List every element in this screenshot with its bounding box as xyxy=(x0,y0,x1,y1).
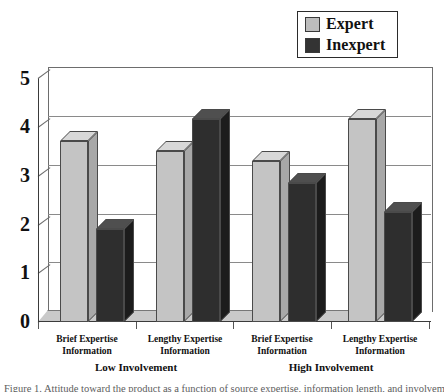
bar-expert-g1 xyxy=(60,141,88,322)
figure-root: Expert Inexpert 0 1 2 3 4 5 xyxy=(0,0,447,392)
x-label-line1: Lengthy Expertise xyxy=(136,334,234,346)
bar-inexpert-g4 xyxy=(384,212,412,322)
bar-face xyxy=(60,141,88,322)
x-label-line1: Brief Expertise xyxy=(233,334,331,346)
plot-area xyxy=(38,78,431,322)
bar-side xyxy=(316,173,326,322)
group-label-high-involvement: High Involvement xyxy=(233,361,429,373)
x-label-group1-cat1: Brief Expertise Information xyxy=(38,334,136,357)
bar-inexpert-g2 xyxy=(192,119,220,322)
x-label-group2-cat2: Lengthy Expertise Information xyxy=(331,334,429,357)
bar-face xyxy=(156,151,184,322)
legend-swatch-icon-expert xyxy=(305,17,320,32)
x-label-line1: Lengthy Expertise xyxy=(331,334,429,346)
y-tick-label-2: 2 xyxy=(8,214,30,234)
bar-inexpert-g1 xyxy=(96,229,124,322)
x-label-line2: Information xyxy=(233,346,331,358)
legend-label-inexpert: Inexpert xyxy=(326,37,385,53)
x-tick-1 xyxy=(136,322,137,329)
bar-face xyxy=(384,212,412,322)
y-axis-line xyxy=(38,89,39,322)
bar-side xyxy=(124,219,134,322)
bar-face xyxy=(288,183,316,322)
legend-item-expert: Expert xyxy=(305,15,397,34)
chart-legend: Expert Inexpert xyxy=(297,11,398,58)
bar-side xyxy=(220,109,230,322)
bar-side xyxy=(412,202,422,322)
bar-face xyxy=(96,229,124,322)
legend-item-inexpert: Inexpert xyxy=(305,36,397,55)
y-tick-label-5: 5 xyxy=(8,68,30,88)
x-tick-3 xyxy=(331,322,332,329)
figure-caption: Figure 1. Attitude toward the product as… xyxy=(4,383,444,392)
bar-face xyxy=(252,161,280,322)
legend-swatch-icon-inexpert xyxy=(305,38,320,53)
group-label-low-involvement: Low Involvement xyxy=(38,361,234,373)
x-label-line2: Information xyxy=(331,346,429,358)
bar-inexpert-g3 xyxy=(288,183,316,322)
x-label-group2-cat1: Brief Expertise Information xyxy=(233,334,331,357)
x-tick-0 xyxy=(38,322,39,329)
x-tick-4 xyxy=(429,322,430,329)
legend-label-expert: Expert xyxy=(326,16,374,32)
bar-expert-g4 xyxy=(348,119,376,322)
y-tick-label-0: 0 xyxy=(8,311,30,331)
x-label-line2: Information xyxy=(136,346,234,358)
x-tick-2 xyxy=(233,322,234,329)
x-label-group1-cat2: Lengthy Expertise Information xyxy=(136,334,234,357)
y-tick-label-3: 3 xyxy=(8,165,30,185)
y-tick-label-4: 4 xyxy=(8,116,30,136)
x-label-line1: Brief Expertise xyxy=(38,334,136,346)
bar-face xyxy=(192,119,220,322)
x-label-line2: Information xyxy=(38,346,136,358)
y-tick-label-1: 1 xyxy=(8,262,30,282)
bar-face xyxy=(348,119,376,322)
bar-expert-g2 xyxy=(156,151,184,322)
bar-expert-g3 xyxy=(252,161,280,322)
